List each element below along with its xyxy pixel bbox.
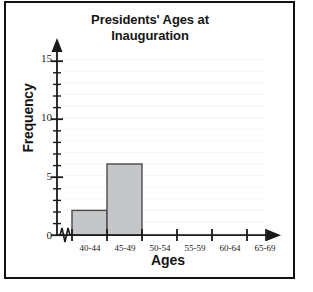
bars — [72, 164, 142, 235]
x-axis-arrow-icon — [267, 230, 281, 241]
chart-figure: Presidents' Ages at Inauguration Frequen… — [0, 0, 313, 292]
bar-40-44 — [72, 210, 107, 235]
plot-area — [0, 0, 313, 292]
gridlines — [62, 60, 266, 234]
bar-45-49 — [107, 164, 142, 235]
